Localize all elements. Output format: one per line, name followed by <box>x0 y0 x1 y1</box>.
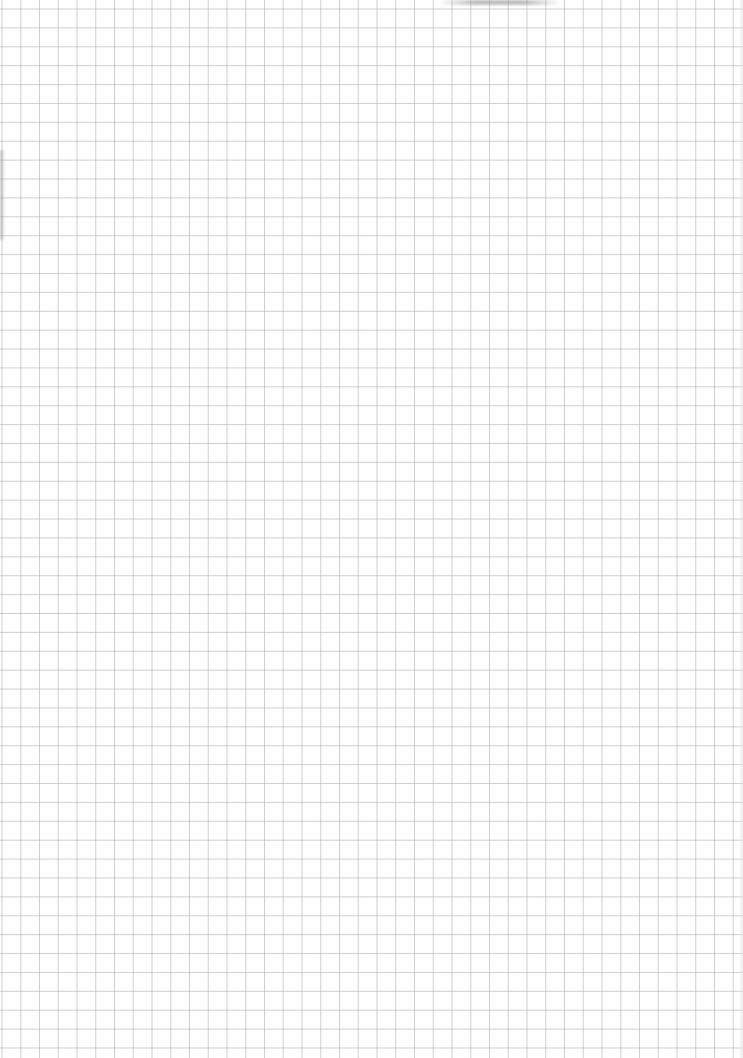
scan-shadow-left <box>0 150 5 240</box>
paper-edge-right <box>739 0 743 1058</box>
graph-paper-sheet <box>0 0 743 1058</box>
scan-smudge-top <box>440 0 560 5</box>
